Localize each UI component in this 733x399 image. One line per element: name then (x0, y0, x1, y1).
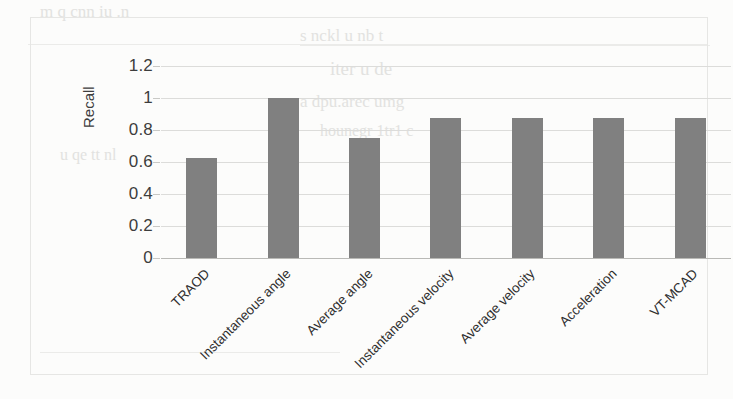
scanned-page-background: m q cnn iu .n s nckl u nb t iter u de a … (0, 0, 733, 399)
bar-slot (650, 66, 731, 258)
bar[interactable] (186, 158, 217, 258)
bar[interactable] (593, 118, 624, 258)
y-tick-mark (153, 226, 160, 227)
x-tick-label: Average velocity (458, 266, 538, 346)
x-tick-label: Instantaneous angle (197, 266, 294, 363)
y-tick-mark (153, 66, 160, 67)
x-tick-label: VT-MCAD (647, 266, 701, 320)
y-tick-mark (153, 258, 160, 259)
bar-slot (487, 66, 568, 258)
y-tick-label: 1 (143, 88, 153, 108)
bar-slot (242, 66, 323, 258)
bar-series (161, 66, 731, 258)
bar-slot (405, 66, 486, 258)
bar-slot (324, 66, 405, 258)
y-tick-mark (153, 162, 160, 163)
y-tick-label: 0.2 (129, 216, 153, 236)
bar-slot (568, 66, 649, 258)
y-tick-mark (153, 194, 160, 195)
y-tick-mark (153, 130, 160, 131)
x-axis-line (161, 258, 731, 259)
y-tick-label: 0.4 (129, 184, 153, 204)
x-tick-label: Average angle (303, 266, 375, 338)
bar[interactable] (512, 118, 543, 258)
y-tick-label: 0.8 (129, 120, 153, 140)
x-tick-label: Acceleration (556, 266, 619, 329)
y-tick-label: 0 (143, 248, 153, 268)
y-tick-mark (153, 98, 160, 99)
y-axis-tick-labels: 00.20.40.60.811.2 (91, 66, 153, 258)
bar[interactable] (675, 118, 706, 258)
plot-area (161, 66, 731, 258)
bar[interactable] (268, 98, 299, 258)
bar[interactable] (349, 138, 380, 258)
chart-frame: Recall 00.20.40.60.811.2 TRAODInstantane… (30, 17, 708, 375)
bar-slot (161, 66, 242, 258)
y-tick-label: 1.2 (129, 56, 153, 76)
x-tick-label: TRAOD (168, 266, 212, 310)
bar[interactable] (430, 118, 461, 258)
y-tick-label: 0.6 (129, 152, 153, 172)
x-axis-tick-labels: TRAODInstantaneous angleAverage angleIns… (161, 262, 731, 382)
